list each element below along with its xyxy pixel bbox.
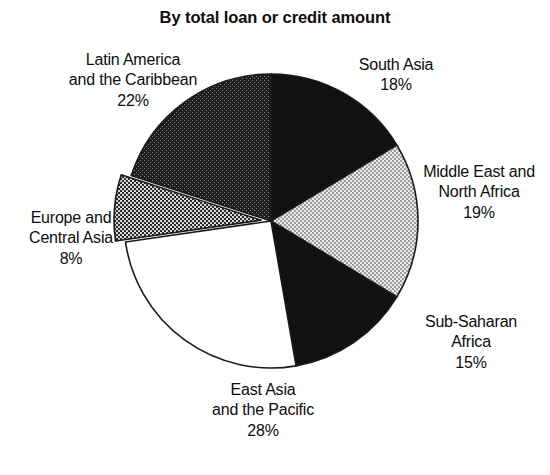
pie-slices-group bbox=[114, 74, 418, 368]
slice-label-south-asia: South Asia 18% bbox=[316, 55, 476, 96]
pie-chart-figure: By total loan or credit amount bbox=[0, 0, 550, 475]
slice-label-sub-saharan-africa: Sub-Saharan Africa 15% bbox=[396, 312, 546, 373]
pie-slice-east-asia-and-the-pacific bbox=[126, 221, 297, 368]
slice-label-latin-america-and-the-caribbean: Latin America and the Caribbean 22% bbox=[18, 50, 248, 111]
slice-label-middle-east-and-north-africa: Middle East and North Africa 19% bbox=[408, 162, 550, 223]
slice-label-europe-and-central-asia: Europe and Central Asia 8% bbox=[4, 208, 138, 269]
slice-label-east-asia-and-the-pacific: East Asia and the Pacific 28% bbox=[158, 380, 368, 441]
